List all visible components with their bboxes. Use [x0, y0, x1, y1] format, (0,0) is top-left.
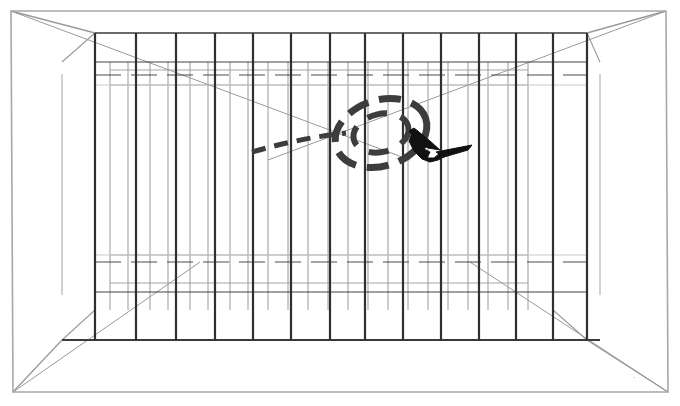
illustration-canvas: . — [0, 0, 680, 406]
background — [0, 0, 680, 406]
cage-bird-drawing: . — [0, 0, 680, 406]
signature-mark: . — [633, 371, 635, 380]
